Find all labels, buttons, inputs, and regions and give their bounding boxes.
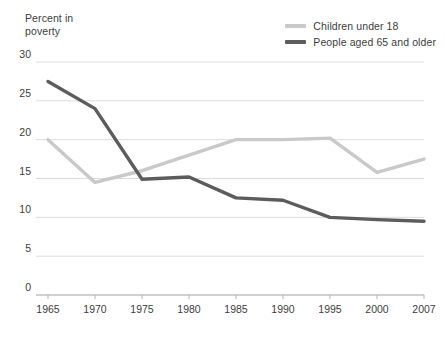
y-tick-label: 5 xyxy=(25,242,31,254)
x-tick-label: 2000 xyxy=(365,303,389,315)
x-tick-label: 1970 xyxy=(83,303,107,315)
y-tick-label: 20 xyxy=(19,126,31,138)
chart-container: Percent in poverty Children under 18 Peo… xyxy=(0,0,444,338)
y-tick-label: 10 xyxy=(19,203,31,215)
x-tick-label: 1985 xyxy=(224,303,248,315)
series-line xyxy=(48,81,424,221)
gridlines xyxy=(36,62,424,295)
y-tick-label: 30 xyxy=(19,48,31,60)
series-lines xyxy=(48,81,424,221)
x-tick-label: 1995 xyxy=(318,303,342,315)
y-tick-label: 25 xyxy=(19,87,31,99)
y-tick-label: 0 xyxy=(25,281,31,293)
y-tick-labels: 051015202530 xyxy=(19,48,31,293)
y-tick-label: 15 xyxy=(19,165,31,177)
x-tick-marks xyxy=(48,295,424,299)
x-tick-label: 1975 xyxy=(130,303,154,315)
series-line xyxy=(48,138,424,182)
x-tick-label: 2007 xyxy=(412,303,436,315)
x-tick-label: 1980 xyxy=(177,303,201,315)
x-tick-labels: 196519701975198019851990199520002007 xyxy=(36,303,436,315)
x-tick-label: 1965 xyxy=(36,303,60,315)
chart-plot-area: 051015202530 196519701975198019851990199… xyxy=(0,0,444,338)
x-tick-label: 1990 xyxy=(271,303,295,315)
